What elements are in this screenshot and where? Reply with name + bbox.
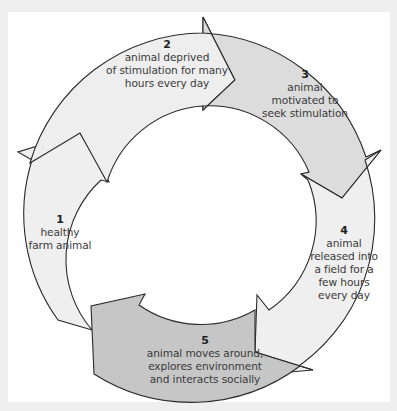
step-5-label: 5 animal moves around, explores environm… [130, 334, 280, 386]
step-3-number: 3 [255, 68, 355, 81]
step-4-label: 4 animal released into a field for a few… [306, 224, 382, 302]
step-5-text: animal moves around, explores environmen… [130, 347, 280, 386]
step-1-label: 1 healthy farm animal [22, 213, 98, 252]
step-3-label: 3 animal motivated to seek stimulation [255, 68, 355, 120]
step-4-text: animal released into a field for a few h… [306, 237, 382, 302]
step-1-text: healthy farm animal [22, 226, 98, 252]
step-2-text: animal deprived of stimulation for many … [97, 51, 237, 90]
step-1-number: 1 [22, 213, 98, 226]
step-3-text: animal motivated to seek stimulation [255, 81, 355, 120]
step-5-number: 5 [130, 334, 280, 347]
step-2-number: 2 [97, 38, 237, 51]
step-2-label: 2 animal deprived of stimulation for man… [97, 38, 237, 90]
step-4-number: 4 [306, 224, 382, 237]
